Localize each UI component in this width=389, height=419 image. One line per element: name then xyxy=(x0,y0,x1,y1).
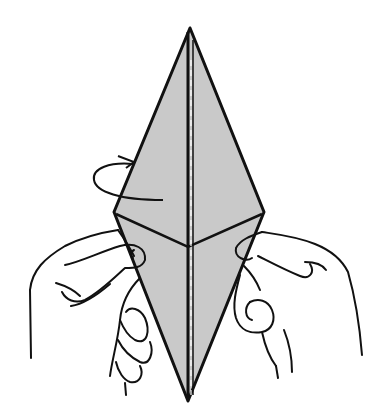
right-hand xyxy=(234,232,362,378)
left-hand xyxy=(30,230,152,395)
diamond-paper xyxy=(114,28,264,401)
origami-illustration: Origami fold step: hands holding diamond… xyxy=(0,0,389,419)
illustration-svg xyxy=(0,0,389,419)
